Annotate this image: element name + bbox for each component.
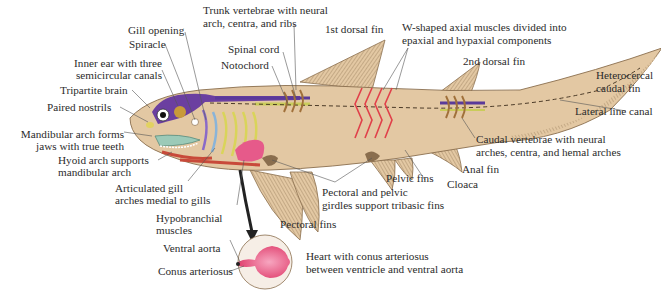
label-pectoral-fins: Pectoral fins bbox=[280, 218, 336, 231]
label-spiracle: Spiracle bbox=[129, 38, 166, 51]
label-heart-line2: between ventricle and ventral aorta bbox=[306, 263, 463, 276]
label-caudal-vertebrae-line2: arches, centra, and hemal arches bbox=[476, 146, 621, 159]
label-hypobranchial-line1: Hypobranchial bbox=[156, 212, 222, 225]
label-ventral-aorta: Ventral aorta bbox=[163, 242, 220, 255]
label-trunk-vertebrae-line1: Trunk vertebrae with neural bbox=[203, 4, 328, 17]
label-conus-arteriosus: Conus arteriosus bbox=[158, 265, 233, 278]
label-caudal-fin-line1: Heterocercal bbox=[596, 69, 653, 82]
label-gill-arches-line2: arches medial to gills bbox=[115, 194, 210, 207]
inner-ear bbox=[174, 106, 186, 118]
label-spinal-cord: Spinal cord bbox=[228, 43, 279, 56]
label-hyoid-line1: Hyoid arch supports bbox=[58, 154, 149, 167]
label-first-dorsal-fin: 1st dorsal fin bbox=[325, 23, 383, 36]
label-heart-line1: Heart with conus arteriosus bbox=[306, 250, 429, 263]
label-paired-nostrils: Paired nostrils bbox=[47, 101, 111, 114]
label-trunk-vertebrae-line2: arch, centra, and ribs bbox=[203, 17, 297, 30]
label-cloaca: Cloaca bbox=[447, 178, 478, 191]
label-inner-ear-line2: semicircular canals bbox=[50, 69, 162, 82]
label-gill-arches-line1: Articulated gill bbox=[115, 182, 183, 195]
label-mandibular-line2: jaws with true teeth bbox=[0, 140, 124, 153]
label-caudal-vertebrae-line1: Caudal vertebrae with neural bbox=[476, 133, 606, 146]
label-caudal-fin-line2: caudal fin bbox=[596, 82, 640, 95]
nostril bbox=[146, 122, 154, 128]
label-mandibular-line1: Mandibular arch forms bbox=[0, 128, 124, 141]
label-girdles-line2: girdles support tribasic fins bbox=[322, 199, 444, 212]
label-inner-ear-line1: Inner ear with three bbox=[50, 57, 162, 70]
first-dorsal-fin bbox=[300, 40, 385, 90]
label-pelvic-fins: Pelvic fins bbox=[386, 172, 434, 185]
label-notochord: Notochord bbox=[221, 59, 269, 72]
heart-inset bbox=[236, 235, 292, 289]
label-second-dorsal-fin: 2nd dorsal fin bbox=[463, 55, 525, 68]
label-anal-fin: Anal fin bbox=[462, 163, 499, 176]
shark-anatomy-diagram: Gill opening Spiracle Inner ear with thr… bbox=[0, 0, 661, 294]
label-tripartite-brain: Tripartite brain bbox=[60, 84, 128, 97]
label-w-muscles-line1: W-shaped axial muscles divided into bbox=[402, 21, 567, 34]
label-lateral-line-canal: Lateral line canal bbox=[575, 105, 653, 118]
label-hypobranchial-line2: muscles bbox=[156, 224, 192, 237]
label-girdles-line1: Pectoral and pelvic bbox=[322, 186, 408, 199]
label-w-muscles-line2: epaxial and hypaxial components bbox=[402, 34, 551, 47]
zoom-arrow bbox=[240, 170, 252, 232]
label-hyoid-line2: mandibular arch bbox=[58, 166, 131, 179]
label-gill-opening: Gill opening bbox=[128, 24, 184, 37]
